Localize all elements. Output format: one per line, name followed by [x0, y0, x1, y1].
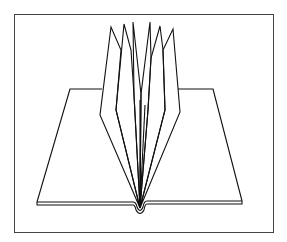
illustration-canvas [0, 0, 287, 242]
open-book-illustration [0, 0, 287, 242]
fanned-pages [100, 22, 180, 208]
